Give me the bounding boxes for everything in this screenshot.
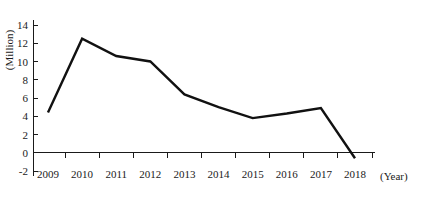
y-axis-tick-marks bbox=[33, 25, 38, 171]
chart-canvas: 14121086420-2 20092010201120122013201420… bbox=[0, 0, 421, 202]
x-tick-label: 2011 bbox=[105, 168, 127, 180]
x-axis-tick-marks bbox=[65, 153, 372, 158]
y-tick-label: 14 bbox=[17, 19, 29, 31]
line-chart: 14121086420-2 20092010201120122013201420… bbox=[0, 0, 421, 202]
x-tick-label: 2014 bbox=[208, 168, 231, 180]
y-tick-label: -2 bbox=[19, 165, 28, 177]
y-tick-label: 6 bbox=[23, 92, 29, 104]
x-tick-label: 2017 bbox=[310, 168, 333, 180]
data-series-line bbox=[48, 39, 355, 159]
y-tick-label: 2 bbox=[23, 129, 29, 141]
y-axis-unit-label: (Million) bbox=[3, 27, 15, 73]
x-axis-unit-label: (Year) bbox=[380, 170, 408, 182]
y-tick-label: 0 bbox=[23, 147, 29, 159]
x-tick-label: 2018 bbox=[344, 168, 367, 180]
x-tick-label: 2010 bbox=[71, 168, 94, 180]
x-tick-label: 2012 bbox=[139, 168, 161, 180]
y-tick-label: 12 bbox=[17, 37, 28, 49]
x-tick-label: 2009 bbox=[37, 168, 60, 180]
x-tick-label: 2013 bbox=[173, 168, 196, 180]
y-tick-label: 10 bbox=[17, 56, 29, 68]
y-axis-tick-labels: 14121086420-2 bbox=[17, 19, 29, 177]
x-axis-tick-labels: 2009201020112012201320142015201620172018 bbox=[37, 168, 367, 180]
y-tick-label: 4 bbox=[23, 110, 29, 122]
y-tick-label: 8 bbox=[23, 74, 29, 86]
x-tick-label: 2016 bbox=[276, 168, 299, 180]
x-tick-label: 2015 bbox=[242, 168, 265, 180]
